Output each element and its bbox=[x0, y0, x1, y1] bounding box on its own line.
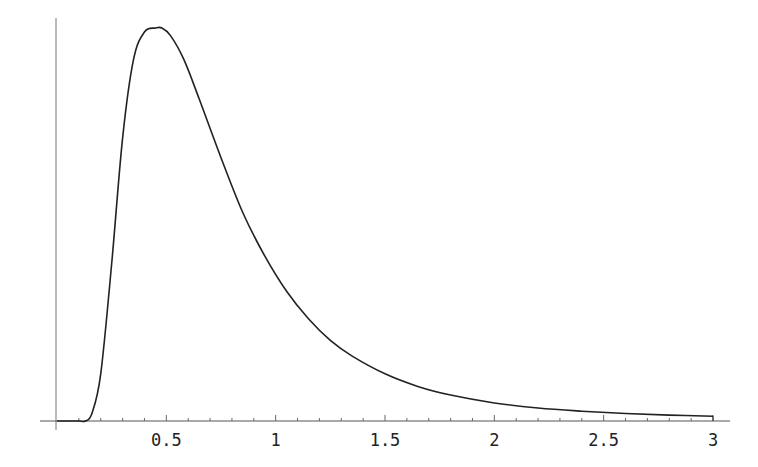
x-tick-label: 0.5 bbox=[151, 430, 182, 450]
x-tick-label: 2.5 bbox=[588, 430, 619, 450]
x-tick-label: 1 bbox=[271, 430, 281, 450]
chart: 0.5 1 1.5 2 2.5 3 bbox=[0, 0, 758, 467]
x-tick-label: 3 bbox=[708, 430, 718, 450]
density-curve bbox=[57, 27, 713, 421]
x-axis-ticks bbox=[79, 415, 713, 421]
x-axis-tick-labels: 0.5 1 1.5 2 2.5 3 bbox=[151, 430, 718, 450]
x-tick-label: 2 bbox=[489, 430, 499, 450]
x-tick-label: 1.5 bbox=[370, 430, 401, 450]
